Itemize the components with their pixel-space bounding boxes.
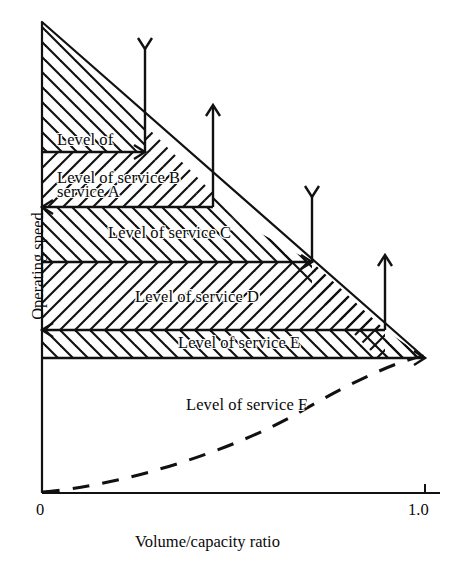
level-a-label: Level of service A bbox=[57, 96, 120, 235]
x-tick-label-1: 1.0 bbox=[408, 500, 429, 520]
envelope-mask-below bbox=[42, 359, 452, 560]
level-f-label: Level of service F bbox=[186, 396, 307, 413]
level-d-label: Level of service D bbox=[135, 288, 259, 305]
level-of-service-figure: Level of service A Level of service B Le… bbox=[0, 0, 456, 564]
level-c-label: Level of service C bbox=[108, 224, 231, 241]
chart-canvas bbox=[0, 0, 456, 564]
y-axis-title: Operating speed bbox=[28, 186, 48, 346]
level-a-label-line1: Level of bbox=[57, 131, 120, 148]
x-tick-label-0: 0 bbox=[36, 500, 44, 520]
level-e-label: Level of service E bbox=[178, 334, 300, 351]
x-axis-title: Volume/capacity ratio bbox=[135, 532, 280, 552]
level-b-label: Level of service B bbox=[57, 169, 180, 186]
